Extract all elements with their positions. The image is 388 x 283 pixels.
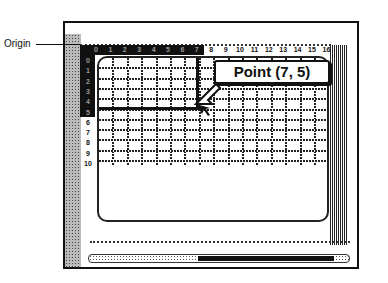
grid-line-horizontal	[99, 129, 329, 131]
y-tick-label: 7	[81, 128, 95, 138]
monitor-bottom-edge	[90, 241, 350, 245]
x-tick-label: 2	[118, 45, 132, 55]
y-tick-label: 2	[81, 77, 95, 87]
point-callout: Point (7, 5)	[214, 60, 330, 84]
y-tick-label: 8	[81, 138, 95, 148]
arrow-cursor-icon	[196, 104, 210, 116]
x-tick-label: 10	[233, 45, 247, 55]
y-tick-label: 6	[81, 118, 95, 128]
callout-pointer-icon	[190, 80, 230, 120]
callout-text: Point (7, 5)	[234, 63, 311, 80]
x-tick-label: 8	[204, 45, 218, 55]
x-tick-label: 4	[147, 45, 161, 55]
grid-line-horizontal	[99, 150, 329, 152]
y-tick-label: 4	[81, 97, 95, 107]
x-tick-label: 16	[319, 45, 333, 55]
monitor-left-bevel	[65, 34, 81, 267]
origin-label: Origin	[4, 38, 31, 49]
y-tick-label: 3	[81, 87, 95, 97]
x-tick-label: 11	[247, 45, 261, 55]
grid-line-horizontal	[99, 139, 329, 141]
x-tick-label: 1	[103, 45, 117, 55]
y-tick-label: 10	[81, 159, 95, 169]
y-tick-label: 9	[81, 149, 95, 159]
grid-line-horizontal	[99, 160, 329, 162]
y-tick-label: 0	[81, 56, 95, 66]
x-tick-label: 12	[262, 45, 276, 55]
x-tick-label: 14	[291, 45, 305, 55]
monitor-right-bevel	[330, 45, 347, 245]
x-tick-label: 3	[132, 45, 146, 55]
monitor-base-bar-shade	[198, 256, 334, 261]
x-tick-label: 9	[219, 45, 233, 55]
y-tick-label: 5	[81, 108, 95, 118]
x-tick-label: 7	[190, 45, 204, 55]
x-tick-label: 5	[161, 45, 175, 55]
x-tick-label: 13	[276, 45, 290, 55]
point-y-indicator-line	[99, 107, 199, 110]
y-tick-label: 1	[81, 66, 95, 76]
x-tick-label: 0	[89, 45, 103, 55]
x-tick-label: 6	[175, 45, 189, 55]
x-tick-label: 15	[305, 45, 319, 55]
origin-leader-line	[36, 44, 80, 45]
